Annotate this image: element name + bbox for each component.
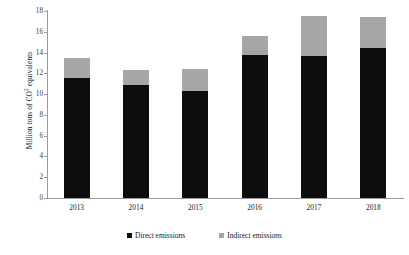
y-tick-label: 18 xyxy=(3,7,43,15)
y-tick-label: 12 xyxy=(3,69,43,77)
y-tick-mark xyxy=(44,32,47,33)
bar-group[interactable] xyxy=(64,11,90,198)
bar-segment-direct[interactable] xyxy=(242,55,268,198)
legend-label: Indirect emissions xyxy=(227,231,282,240)
y-tick-label: 8 xyxy=(3,111,43,119)
y-tick-mark xyxy=(44,156,47,157)
x-tick-label: 2017 xyxy=(284,203,344,212)
y-axis-ticks: 024681012141618 xyxy=(0,0,43,255)
x-tick-label: 2015 xyxy=(165,203,225,212)
y-tick-mark xyxy=(44,73,47,74)
bar-group[interactable] xyxy=(360,11,386,198)
plot-area xyxy=(47,11,403,198)
y-tick-mark xyxy=(44,198,47,199)
bar-segment-indirect[interactable] xyxy=(182,69,208,91)
y-tick-mark xyxy=(44,136,47,137)
legend-label: Direct emissions xyxy=(135,231,185,240)
bar-segment-indirect[interactable] xyxy=(301,16,327,55)
legend-item[interactable]: Direct emissions xyxy=(127,231,185,240)
y-tick-mark xyxy=(44,94,47,95)
x-tick-label: 2016 xyxy=(225,203,285,212)
chart-legend: Direct emissionsIndirect emissions xyxy=(0,231,409,240)
bar-segment-indirect[interactable] xyxy=(123,70,149,85)
bar-segment-indirect[interactable] xyxy=(360,17,386,48)
bar-segment-direct[interactable] xyxy=(301,56,327,198)
bar-segment-direct[interactable] xyxy=(360,48,386,198)
y-tick-mark xyxy=(44,177,47,178)
y-tick-mark xyxy=(44,53,47,54)
legend-swatch-icon xyxy=(219,233,224,238)
y-tick-mark xyxy=(44,11,47,12)
y-tick-label: 0 xyxy=(3,194,43,202)
x-axis-line xyxy=(47,198,404,199)
y-tick-mark xyxy=(44,115,47,116)
legend-swatch-icon xyxy=(127,233,132,238)
bar-group[interactable] xyxy=(123,11,149,198)
bar-segment-direct[interactable] xyxy=(182,91,208,198)
y-tick-label: 6 xyxy=(3,132,43,140)
bar-group[interactable] xyxy=(242,11,268,198)
x-tick-label: 2013 xyxy=(47,203,107,212)
legend-item[interactable]: Indirect emissions xyxy=(219,231,282,240)
bar-group[interactable] xyxy=(182,11,208,198)
emissions-stacked-bar-chart: Million tons of CO2 equivalents 02468101… xyxy=(0,0,409,255)
bar-segment-indirect[interactable] xyxy=(242,36,268,55)
y-tick-label: 16 xyxy=(3,28,43,36)
bar-segment-direct[interactable] xyxy=(64,78,90,199)
y-tick-label: 4 xyxy=(3,152,43,160)
y-tick-label: 2 xyxy=(3,173,43,181)
bar-segment-direct[interactable] xyxy=(123,85,149,198)
y-tick-label: 14 xyxy=(3,49,43,57)
x-tick-label: 2014 xyxy=(106,203,166,212)
bar-segment-indirect[interactable] xyxy=(64,58,90,78)
bar-group[interactable] xyxy=(301,11,327,198)
y-tick-label: 10 xyxy=(3,90,43,98)
x-tick-label: 2018 xyxy=(343,203,403,212)
